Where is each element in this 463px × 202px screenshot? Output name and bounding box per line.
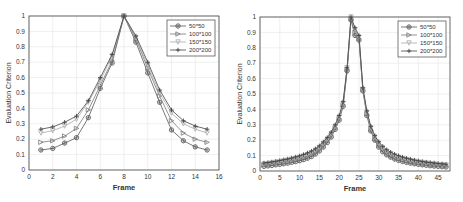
- y-axis-label: Evaluation Criterion: [236, 63, 243, 124]
- legend-entry: 50*50: [420, 24, 436, 30]
- x-tick-label: 5: [278, 174, 282, 181]
- y-tick-label: 0.1: [16, 151, 25, 158]
- x-tick-label: 2: [51, 173, 55, 180]
- y-tick-label: 0: [252, 167, 256, 174]
- y-tick-label: 0.8: [247, 44, 256, 51]
- y-tick-label: 0.7: [16, 58, 25, 65]
- legend: 50*50100*100150*150200*200: [398, 21, 446, 57]
- y-tick-label: 0.8: [16, 43, 25, 50]
- legend: 50*50100*100150*150200*200: [167, 20, 215, 56]
- y-tick-label: 0.2: [247, 136, 256, 143]
- x-tick-label: 15: [316, 174, 324, 181]
- x-tick-label: 8: [122, 173, 126, 180]
- x-tick-label: 30: [375, 174, 383, 181]
- x-tick-label: 12: [168, 173, 176, 180]
- x-tick-label: 6: [98, 173, 102, 180]
- x-tick-label: 4: [75, 173, 79, 180]
- y-tick-label: 0.2: [16, 135, 25, 142]
- x-axis-label: Frame: [344, 184, 367, 193]
- x-tick-label: 25: [355, 174, 363, 181]
- legend-entry: 100*100: [420, 32, 443, 38]
- legend-entry: 200*200: [189, 47, 212, 53]
- x-tick-label: 45: [435, 174, 443, 181]
- x-tick-label: 20: [336, 174, 344, 181]
- x-tick-label: 0: [27, 173, 31, 180]
- x-tick-label: 14: [192, 173, 200, 180]
- y-tick-label: 0.5: [16, 89, 25, 96]
- legend-entry: 150*150: [420, 40, 443, 46]
- y-tick-label: 0.6: [247, 75, 256, 82]
- x-tick-label: 10: [144, 173, 152, 180]
- x-tick-label: 0: [258, 174, 262, 181]
- legend-entry: 50*50: [189, 23, 205, 29]
- y-tick-label: 0.5: [247, 90, 256, 97]
- x-tick-label: 16: [215, 173, 223, 180]
- x-axis-label: Frame: [113, 183, 136, 192]
- y-tick-label: 0.3: [247, 121, 256, 128]
- y-tick-label: 0.9: [247, 29, 256, 36]
- legend-entry: 150*150: [189, 39, 212, 45]
- legend-entry: 200*200: [420, 48, 443, 54]
- y-tick-label: 1: [252, 13, 256, 20]
- y-tick-label: 1: [21, 12, 25, 19]
- y-tick-label: 0.3: [16, 120, 25, 127]
- right-chart: 05101520253035404500.10.20.30.40.50.60.7…: [231, 0, 463, 202]
- x-tick-label: 40: [415, 174, 423, 181]
- y-tick-label: 0.1: [247, 152, 256, 159]
- y-axis-label: Evaluation Criterion: [5, 62, 12, 123]
- left-chart: 024681012141600.10.20.30.40.50.60.70.80.…: [0, 0, 231, 202]
- y-tick-label: 0.4: [16, 105, 25, 112]
- y-tick-label: 0.7: [247, 59, 256, 66]
- y-tick-label: 0: [21, 166, 25, 173]
- x-tick-label: 35: [395, 174, 403, 181]
- y-tick-label: 0.6: [16, 74, 25, 81]
- legend-entry: 100*100: [189, 31, 212, 37]
- y-tick-label: 0.9: [16, 28, 25, 35]
- y-tick-label: 0.4: [247, 106, 256, 113]
- x-tick-label: 10: [296, 174, 304, 181]
